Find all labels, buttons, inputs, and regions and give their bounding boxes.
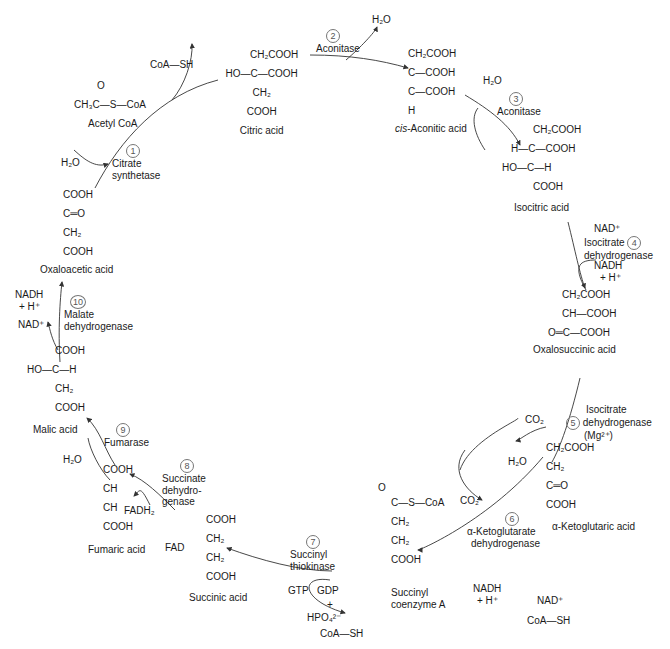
line: CH₂ — [378, 531, 444, 550]
isocitric-acid: CH₂COOH H—C—COOH HO—C—H COOH — [511, 120, 581, 196]
nad-step-4: NAD⁺ — [594, 223, 620, 235]
line: HO—C—COOH — [225, 64, 298, 83]
line: H — [408, 101, 456, 120]
fumaric-acid-label: Fumaric acid — [88, 544, 145, 556]
line: CH₂COOH — [546, 438, 594, 457]
line: COOH — [225, 102, 298, 121]
cis-prefix: cis — [395, 123, 407, 134]
line: C—COOH — [408, 82, 456, 101]
nadh: NADH — [473, 583, 501, 595]
carbonyl-o: O — [378, 483, 444, 493]
line: C—S—CoA — [378, 493, 444, 512]
enzyme-aconitase: Aconitase — [316, 43, 360, 55]
line: CH₂ — [63, 223, 93, 242]
succinic-acid: COOH CH₂ CH₂ COOH — [206, 510, 236, 586]
step-2-label: 2 Aconitase — [316, 29, 360, 55]
coa-sh-step-6: CoA—SH — [527, 615, 570, 627]
oxaloacetic-acid: COOH C═O CH₂ COOH — [63, 185, 93, 261]
alpha-ketoglutaric-acid: CH₂COOH CH₂ C═O COOH — [546, 438, 594, 514]
line: COOH — [103, 517, 133, 536]
line: HO—C—H — [27, 360, 85, 379]
hpo4: HPO₄²⁻ — [307, 612, 341, 624]
fumaric-acid: COOH CH CH COOH — [103, 460, 133, 536]
line: CH — [103, 498, 133, 517]
enzyme-synthetase: synthetase — [112, 170, 160, 182]
nadh-step-6: NADH + H⁺ — [473, 583, 501, 606]
h-plus: + H⁺ — [15, 301, 43, 313]
name-line-1: Succinyl — [391, 587, 445, 599]
name: -Aconitic acid — [407, 123, 466, 134]
line: COOH — [27, 398, 85, 417]
malic-acid-label: Malic acid — [33, 424, 77, 436]
line: H—C—COOH — [511, 139, 581, 158]
acetyl-coa: O CH₃C—S—CoA Acetyl CoA — [74, 76, 146, 133]
line: COOH — [63, 242, 93, 261]
line: COOH — [63, 185, 93, 204]
name-line-2: coenzyme A — [391, 599, 445, 611]
line: CH — [103, 479, 133, 498]
succinic-acid-label: Succinic acid — [189, 592, 247, 604]
step-7-number: 7 — [306, 535, 320, 549]
step-5-label: Isocitrate 5 dehydrogenase (Mg²⁺) — [566, 404, 652, 441]
nadh: NADH — [15, 289, 43, 301]
step-4-label: Isocitrate 4 dehydrogenase — [584, 236, 653, 262]
step-6-label: 6 α-Ketoglutarate dehydrogenase — [467, 512, 540, 549]
cis-aconitic-acid-label: cis-Aconitic acid — [395, 123, 467, 135]
line: CH₂COOH — [548, 285, 616, 304]
step-1-label: 1 Citrate synthetase — [112, 144, 160, 181]
co2-step-6: CO₂ — [460, 495, 479, 507]
enzyme-isocitrate: Isocitrate — [566, 404, 652, 416]
gtp: GTP — [288, 585, 309, 597]
step-7-label: 7 Succinyl thiokinase — [290, 535, 335, 572]
nadh: NADH — [594, 260, 622, 272]
line: C═O — [546, 476, 594, 495]
acetyl-coa-label: Acetyl CoA — [74, 114, 146, 133]
step-2-number: 2 — [326, 29, 340, 43]
line: CH₂ — [206, 548, 236, 567]
enzyme-dehydrogenase: dehydrogenase — [64, 321, 133, 333]
oxalosuccinic-acid: CH₂COOH CH—COOH O═C—COOH — [548, 285, 616, 342]
line: COOH — [206, 567, 236, 586]
fad: FAD — [165, 542, 184, 554]
line: CH₂COOH — [511, 120, 581, 139]
h-plus: + H⁺ — [473, 595, 501, 607]
step-9-label: 9 Fumarase — [104, 423, 149, 449]
step-6-number: 6 — [505, 512, 519, 526]
line: COOH — [511, 177, 581, 196]
enzyme-genase: genase — [162, 496, 206, 508]
enzyme-fumarase: Fumarase — [104, 437, 149, 449]
enzyme-succinyl: Succinyl — [290, 549, 335, 561]
enzyme-isocitrate: Isocitrate — [584, 237, 625, 248]
line: COOH — [103, 460, 133, 479]
line: COOH — [27, 341, 85, 360]
line: CH—COOH — [548, 304, 616, 323]
line: C═O — [63, 204, 93, 223]
co2-step-5: CO₂ — [525, 414, 544, 426]
line: CH₂ — [546, 457, 594, 476]
oxalosuccinic-acid-label: Oxalosuccinic acid — [533, 344, 616, 356]
acetyl-coa-carbonyl: O — [74, 76, 146, 95]
enzyme-citrate: Citrate — [112, 158, 160, 170]
malic-acid: COOH HO—C—H CH₂ COOH — [27, 341, 85, 417]
gdp: GDP — [317, 585, 339, 597]
succinyl-coa-label: Succinyl coenzyme A — [391, 587, 445, 610]
enzyme-malate: Malate — [64, 309, 133, 321]
step-10-number: 10 — [70, 295, 86, 309]
enzyme-thiokinase: thiokinase — [290, 561, 335, 573]
line: CH₂COOH — [408, 44, 456, 63]
step-3-label: 3 Aconitase — [497, 92, 541, 118]
h2o-step-3: H₂O — [483, 75, 502, 87]
enzyme-alpha-ketoglutarate: α-Ketoglutarate — [467, 526, 540, 538]
enzyme-aconitase: Aconitase — [497, 106, 541, 118]
step-8-number: 8 — [180, 459, 194, 473]
enzyme-dehydro: dehydro- — [162, 485, 206, 497]
nad-step-6: NAD⁺ — [537, 595, 563, 607]
line: COOH — [546, 495, 594, 514]
line: HO—C—H — [502, 158, 581, 177]
step-4-number: 4 — [627, 236, 641, 250]
line: CH₂ — [206, 529, 236, 548]
h-plus: + H⁺ — [594, 272, 622, 284]
citric-acid: CH₂COOH HO—C—COOH CH₂ COOH Citric acid — [225, 45, 298, 140]
enzyme-dehydrogenase: dehydrogenase — [467, 538, 540, 550]
line: C—COOH — [408, 63, 456, 82]
